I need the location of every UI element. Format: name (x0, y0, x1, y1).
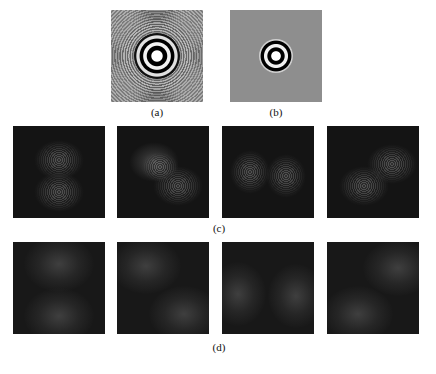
panel-c-1-image (13, 126, 105, 218)
row-c-label: (c) (199, 222, 239, 234)
panel-b-psf-image (230, 10, 322, 102)
panel-c-3-image (222, 126, 314, 218)
panel-b-label: (b) (256, 106, 296, 118)
panel-d-1-image (13, 242, 105, 334)
lobe-lower-right (149, 286, 209, 334)
lobe-top (24, 242, 94, 292)
lobe-right (266, 154, 306, 198)
lobe-right (268, 264, 314, 328)
row-d-label: (d) (199, 341, 239, 353)
panel-a-label: (a) (137, 106, 177, 118)
psf-core (134, 33, 180, 79)
panel-d-2-image (117, 242, 209, 334)
panel-d-4-image (327, 242, 419, 334)
panel-c-2-image (117, 126, 209, 218)
panel-d-3-image (222, 242, 314, 334)
lobe-bottom (34, 172, 84, 212)
panel-c-4-image (327, 126, 419, 218)
lobe-bottom (24, 288, 94, 334)
psf-core (259, 39, 293, 73)
lobe-lower-left (339, 166, 389, 206)
lobe-left (222, 262, 266, 326)
lobe-left (230, 150, 270, 194)
clipped-caption-strip (0, 364, 170, 374)
lobe-center (141, 152, 179, 182)
panel-a-psf-image (111, 10, 203, 102)
lobe-upper-left (117, 242, 181, 294)
